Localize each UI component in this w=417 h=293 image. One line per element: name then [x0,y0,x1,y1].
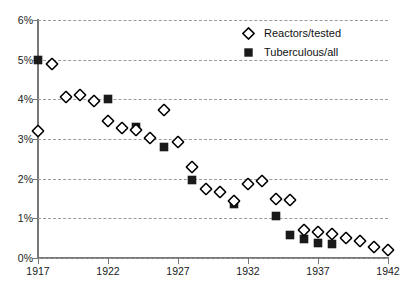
data-point-reactors-tested [200,182,213,195]
data-point-tuberculous-all [33,54,44,65]
y-axis-tick [33,99,38,100]
data-point-reactors-tested [242,178,255,191]
data-point-reactors-tested [312,226,325,239]
data-point-reactors-tested [298,223,311,236]
y-axis-label: 4% [18,94,33,105]
x-axis-label: 1927 [166,266,189,277]
data-point-reactors-tested [46,58,59,71]
x-axis-label: 1932 [236,266,259,277]
data-point-reactors-tested [60,90,73,103]
data-point-tuberculous-all [313,238,324,249]
data-point-reactors-tested [354,234,367,247]
gridline [38,179,388,180]
data-point-reactors-tested [284,194,297,207]
gridline [38,218,388,219]
scatter-chart: 6%5%4%3%2%1%0% 191719221927193219371942 … [0,0,417,293]
x-axis-tick [388,258,389,264]
data-point-reactors-tested [144,132,157,145]
legend-item-reactors-tested: Reactors/tested [240,26,341,40]
x-axis-tick [108,258,109,264]
y-axis-label: 5% [18,55,33,66]
x-axis-label: 1917 [26,266,49,277]
x-axis-label: 1942 [376,266,399,277]
x-axis-tick [178,258,179,264]
data-point-reactors-tested [340,232,353,245]
x-axis-tick [318,258,319,264]
data-point-reactors-tested [214,186,227,199]
data-point-tuberculous-all [285,230,296,241]
gridline [38,60,388,61]
data-point-reactors-tested [130,124,143,137]
y-axis-labels: 6%5%4%3%2%1%0% [0,0,33,293]
data-point-tuberculous-all [159,142,170,153]
data-point-reactors-tested [256,175,269,188]
x-axis-tick [38,258,39,264]
open-diamond-icon [240,27,256,40]
data-point-tuberculous-all [103,94,114,105]
filled-square-icon [240,47,256,58]
data-point-reactors-tested [88,95,101,108]
x-axis-label: 1922 [96,266,119,277]
y-axis-tick [33,139,38,140]
chart-legend: Reactors/tested Tuberculous/all [240,26,341,59]
gridline [38,20,388,21]
data-point-reactors-tested [172,135,185,148]
x-axis-label: 1937 [306,266,329,277]
gridline [38,139,388,140]
data-point-reactors-tested [116,121,129,134]
data-point-reactors-tested [186,160,199,173]
data-point-reactors-tested [368,240,381,253]
data-point-reactors-tested [74,89,87,102]
y-axis-label: 0% [18,253,33,264]
data-point-reactors-tested [326,228,339,241]
data-point-tuberculous-all [187,174,198,185]
data-point-reactors-tested [228,195,241,208]
y-axis-tick [33,218,38,219]
data-point-reactors-tested [158,104,171,117]
legend-item-tuberculous-all: Tuberculous/all [240,45,341,59]
gridline [38,258,388,259]
y-axis-tick [33,20,38,21]
y-axis-label: 2% [18,174,33,185]
data-point-reactors-tested [270,192,283,205]
x-axis-tick [248,258,249,264]
y-axis-label: 6% [18,15,33,26]
data-point-reactors-tested [382,244,395,257]
data-point-reactors-tested [32,125,45,138]
data-point-tuberculous-all [271,210,282,221]
legend-label-tuberculous-all: Tuberculous/all [264,47,338,58]
y-axis-tick [33,179,38,180]
y-axis-label: 1% [18,213,33,224]
legend-label-reactors-tested: Reactors/tested [264,28,341,39]
data-point-reactors-tested [102,115,115,128]
